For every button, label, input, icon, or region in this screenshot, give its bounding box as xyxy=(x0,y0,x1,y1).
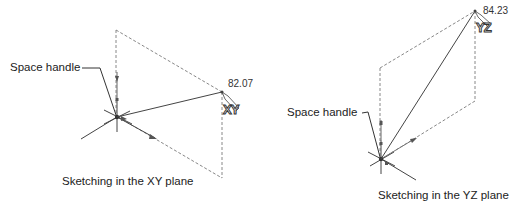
yz-leader-line xyxy=(362,112,380,157)
xy-leader-line xyxy=(82,68,116,115)
yz-space-handle-icon[interactable] xyxy=(368,120,416,180)
xy-figure xyxy=(81,30,239,178)
xy-plane-tag: XY xyxy=(223,102,238,117)
xy-dashed-plane-outline xyxy=(116,30,222,178)
xy-space-handle-label: Space handle xyxy=(10,61,80,73)
yz-sketch-line xyxy=(381,11,475,159)
xy-sketch-line xyxy=(117,92,222,117)
xy-dimension-value[interactable]: 82.07 xyxy=(228,78,253,89)
sketching-planes-diagram: Space handle 82.07 XY Sketching in the X… xyxy=(0,0,515,212)
yz-axis-arrow-icon xyxy=(410,138,417,143)
yz-dimension-value[interactable]: 84.23 xyxy=(483,5,508,16)
yz-caption: Sketching in the YZ plane xyxy=(378,189,509,201)
xy-axis-arrow-icon xyxy=(149,134,157,139)
xy-space-handle-icon[interactable] xyxy=(81,72,155,139)
xy-caption: Sketching in the XY plane xyxy=(62,175,194,187)
yz-space-handle-label: Space handle xyxy=(287,106,357,118)
yz-plane-tag: YZ xyxy=(476,20,491,35)
yz-figure xyxy=(362,10,491,181)
